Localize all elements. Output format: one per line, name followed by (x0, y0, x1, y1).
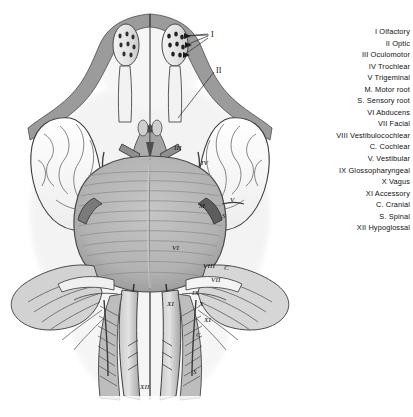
legend-item: V. Vestibular (300, 153, 410, 165)
legend-item: VI Abducens (300, 107, 410, 119)
legend-item: C. Cochlear (300, 141, 410, 153)
legend-item: VIII Vestibulocochlear (300, 130, 410, 142)
figure-label: XI (204, 316, 211, 324)
figure-label: III (174, 144, 182, 152)
brain-drawing (0, 0, 300, 417)
legend-item: XII Hypoglossal (300, 222, 410, 234)
legend-item: S. Sensory root (300, 95, 410, 107)
legend-item: S. Spinal (300, 211, 410, 223)
legend-item: V Trigeminal (300, 72, 410, 84)
figure-label: VI (172, 244, 179, 252)
figure-label: S (193, 368, 197, 376)
legend-item: VII Facial (300, 118, 410, 130)
figure-label: M (199, 202, 205, 210)
brain-anatomy-figure: IIIIIIIVMVSVIVIIICVIIIXXIXXICSXII (0, 0, 300, 417)
figure-label: X (199, 300, 203, 308)
figure-label: XI (167, 300, 174, 308)
legend-item: I Olfactory (300, 26, 410, 38)
legend-item: III Oculomotor (300, 49, 410, 61)
legend-item: IX Glossopharyngeal (300, 165, 410, 177)
pons-cerebellum (74, 156, 226, 292)
cranial-nerve-legend: I OlfactoryII OpticIII OculomotorIV Troc… (300, 26, 410, 234)
figure-label: IV (201, 159, 208, 167)
figure-label: VIII (203, 262, 215, 270)
medulla-spinal-cord (98, 290, 202, 400)
figure-label: C (196, 331, 201, 339)
figure-label: VII (211, 276, 221, 284)
figure-label: V (230, 196, 234, 204)
figure-label: II (216, 66, 222, 75)
figure-label: I (211, 30, 214, 39)
legend-item: C. Cranial (300, 199, 410, 211)
figure-label: IX (192, 289, 199, 297)
legend-item: IV Trochlear (300, 61, 410, 73)
figure-label: S (222, 212, 226, 220)
legend-item: M. Motor root (300, 84, 410, 96)
screenshot-root: IIIIIIIVMVSVIVIIICVIIIXXIXXICSXII I Olfa… (0, 0, 413, 417)
legend-item: X Vagus (300, 176, 410, 188)
figure-label: XII (140, 383, 150, 391)
legend-item: XI Accessory (300, 188, 410, 200)
figure-label: C (224, 264, 229, 272)
legend-item: II Optic (300, 38, 410, 50)
